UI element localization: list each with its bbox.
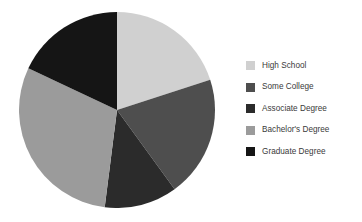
legend-item[interactable]: High School (246, 55, 358, 77)
legend-item-label: High School (262, 62, 306, 70)
chart-legend: High SchoolSome CollegeAssociate DegreeB… (246, 55, 358, 163)
legend-item-label: Some College (262, 83, 314, 91)
legend-swatch-icon (246, 61, 255, 70)
legend-swatch-icon (246, 126, 255, 135)
legend-swatch-icon (246, 83, 255, 92)
pie-chart-plot-area (19, 12, 215, 208)
legend-item[interactable]: Graduate Degree (246, 141, 358, 163)
pie-chart-svg (19, 12, 215, 208)
pie-slice-group (19, 12, 215, 208)
pie-chart-figure: High SchoolSome CollegeAssociate DegreeB… (0, 0, 362, 222)
legend-swatch-icon (246, 147, 255, 156)
legend-item[interactable]: Associate Degree (246, 98, 358, 120)
legend-item[interactable]: Some College (246, 77, 358, 99)
legend-item-label: Associate Degree (262, 105, 327, 113)
legend-item-label: Graduate Degree (262, 148, 326, 156)
legend-swatch-icon (246, 104, 255, 113)
legend-item-label: Bachelor's Degree (262, 126, 329, 134)
legend-item[interactable]: Bachelor's Degree (246, 120, 358, 142)
